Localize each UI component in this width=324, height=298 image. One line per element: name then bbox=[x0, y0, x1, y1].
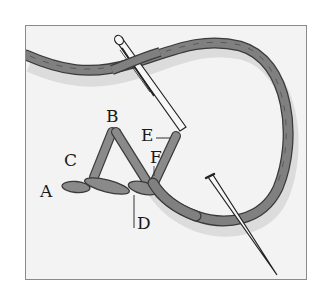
point-label-a: A bbox=[40, 183, 52, 200]
point-label-b: B bbox=[106, 108, 119, 125]
point-label-d: D bbox=[137, 215, 151, 232]
point-label-f: F bbox=[150, 149, 162, 166]
point-label-e: E bbox=[141, 127, 153, 144]
point-label-c: C bbox=[64, 152, 77, 169]
stitch-illustration bbox=[0, 0, 324, 298]
